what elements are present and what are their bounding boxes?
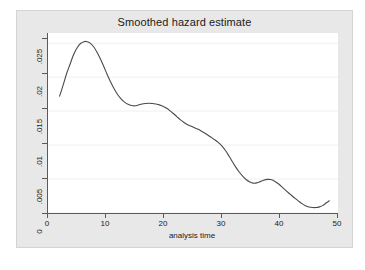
plot-region [47, 33, 338, 214]
xtick-label-10: 10 [93, 219, 117, 228]
xtick-mark-40 [279, 214, 280, 218]
xtick-label-50: 50 [325, 219, 349, 228]
xtick-mark-0 [47, 214, 48, 218]
ytick-label-02: .02 [35, 78, 44, 106]
xtick-label-40: 40 [267, 219, 291, 228]
xtick-mark-10 [105, 214, 106, 218]
xtick-mark-30 [221, 214, 222, 218]
x-axis-title: analysis time [47, 231, 337, 240]
ytick-label-025: .025 [35, 43, 44, 71]
hazard-curve-svg [48, 33, 338, 213]
xtick-label-20: 20 [151, 219, 175, 228]
ytick-label-015: .015 [35, 113, 44, 141]
screenshot-stage: Smoothed hazard estimate .025 .02 .015 .… [0, 0, 365, 270]
ytick-label-005: .005 [35, 183, 44, 211]
gridlines-group [48, 43, 338, 213]
xtick-mark-50 [337, 214, 338, 218]
chart-title: Smoothed hazard estimate [16, 16, 353, 28]
xtick-label-0: 0 [35, 219, 59, 228]
ytick-label-01: .01 [35, 148, 44, 176]
xtick-mark-20 [163, 214, 164, 218]
hazard-curve-line [60, 41, 330, 207]
xtick-label-30: 30 [209, 219, 233, 228]
